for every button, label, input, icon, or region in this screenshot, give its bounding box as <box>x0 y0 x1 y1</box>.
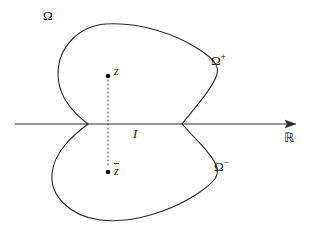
label-omega: Ω <box>43 9 53 22</box>
label-omega-minus: Ω− <box>214 160 229 173</box>
figure-canvas: Ω Ω+ Ω− z z I ℝ <box>0 0 314 238</box>
label-real-axis: ℝ <box>284 131 294 144</box>
label-omega-plus-base: Ω <box>211 53 221 68</box>
label-interval-i: I <box>133 127 137 140</box>
label-z-conjugate-text: z <box>114 163 119 177</box>
label-omega-minus-base: Ω <box>214 159 224 174</box>
label-z-conjugate: z <box>114 163 119 177</box>
point-z-conjugate-dot <box>106 170 111 175</box>
label-omega-plus-superscript: + <box>221 52 226 62</box>
label-omega-plus: Ω+ <box>211 54 226 67</box>
label-omega-minus-superscript: − <box>224 158 229 168</box>
real-axis-group <box>15 120 296 128</box>
label-z: z <box>114 65 119 77</box>
upper-lobe-boundary <box>58 24 217 124</box>
diagram-svg <box>0 0 314 238</box>
point-z-dot <box>106 74 111 79</box>
